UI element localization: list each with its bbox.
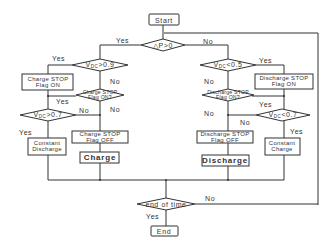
discharge-stop-flag-off-box: Discharge STOPFlag OFF	[200, 131, 249, 143]
discharge-stop-flag-on-decision: Discharge STOPFlag ON?	[207, 90, 249, 100]
edge-label-eot-yes: Yes	[146, 213, 159, 220]
vdc-gt-09-decision: VDC>0.9	[85, 61, 114, 70]
edge-label-dflag-no: No	[204, 110, 214, 117]
edge-label-p-no: No	[203, 38, 213, 45]
end-of-time-decision: end of time	[145, 201, 186, 208]
flowchart-canvas: Start △P>0 VDC>0.9 Charge STOPFlag ON Ch…	[0, 0, 334, 245]
charge-box: Charge	[84, 154, 116, 162]
discharge-box: Discharge	[202, 157, 248, 165]
constant-charge-box: ConstantCharge	[269, 140, 295, 152]
discharge-stop-flag-on-box: Discharge STOPFlag ON	[259, 75, 308, 87]
edge-label-v09-yes: Yes	[52, 55, 65, 62]
flowchart-lines	[0, 0, 334, 245]
edge-label-dflag-yes: Yes	[259, 101, 272, 108]
start-node: Start	[155, 17, 173, 24]
vdc-lt-05-decision: VDC<0.5	[213, 61, 242, 70]
vdc-gt-07-decision: VDC>0.7	[33, 111, 62, 120]
constant-discharge-box: ConstantDischarge	[32, 140, 62, 152]
end-node: End	[157, 228, 171, 235]
charge-stop-flag-on-decision: Charge STOPFlag ON?	[83, 90, 118, 100]
edge-label-cflag-no: No	[110, 106, 120, 113]
edge-label-v07-no: No	[79, 107, 89, 114]
vdc-lt-07-decision: VDC<0.7	[268, 111, 297, 120]
edge-label-v07-yes: Yes	[19, 129, 32, 136]
edge-label-vlt07-yes: Yes	[290, 128, 303, 135]
edge-label-p-yes: Yes	[116, 37, 129, 44]
edge-label-eot-no: No	[205, 195, 215, 202]
edge-label-v05-yes: Yes	[259, 57, 272, 64]
edge-label-cflag-yes: Yes	[56, 98, 69, 105]
edge-label-v05-no: No	[204, 78, 214, 85]
edge-label-v09-no: No	[110, 78, 120, 85]
charge-stop-flag-off-box: Charge STOPFlag OFF	[80, 131, 121, 143]
p-greater-zero-decision: △P>0	[153, 42, 173, 49]
charge-stop-flag-on-box: Charge STOPFlag ON	[28, 76, 69, 88]
edge-label-vlt07-no: No	[240, 119, 250, 126]
